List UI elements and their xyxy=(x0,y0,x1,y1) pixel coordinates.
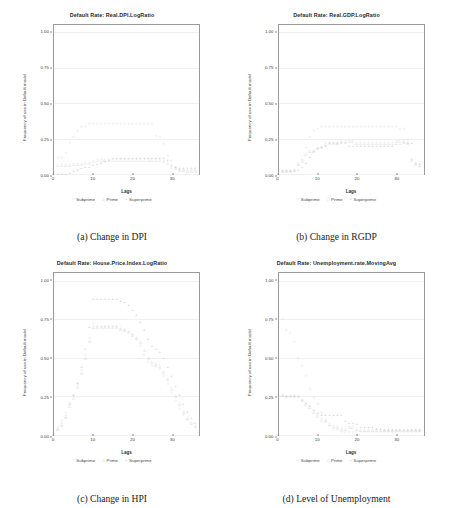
data-point: + xyxy=(281,394,283,398)
data-point: + xyxy=(104,297,106,301)
data-point: + xyxy=(297,168,299,172)
data-point: + xyxy=(151,343,153,347)
grid-line xyxy=(279,435,424,436)
data-point: △ xyxy=(135,336,138,340)
data-point: ○ xyxy=(360,125,363,129)
data-point: + xyxy=(371,425,373,429)
data-point: ○ xyxy=(336,125,339,129)
data-point: + xyxy=(383,428,385,432)
panel-hpi: Default Rate: House.Price.Index.LogRatio… xyxy=(0,248,224,508)
data-point: △ xyxy=(351,425,354,429)
data-point: △ xyxy=(143,348,146,352)
data-point: △ xyxy=(88,339,91,343)
y-tick-label: 0.75 xyxy=(40,316,49,321)
data-point: ○ xyxy=(395,125,398,129)
data-point: △ xyxy=(344,427,347,431)
data-point: △ xyxy=(80,371,83,375)
data-point: △ xyxy=(308,149,311,153)
plot-axes: ○○○○○○○○○○○○○○○○○○○○○○○○○○○○○○○○○○○○△△△△… xyxy=(278,272,425,436)
data-point: ○ xyxy=(305,146,308,150)
data-point: ○ xyxy=(88,122,91,126)
data-point: + xyxy=(332,141,334,145)
data-point: + xyxy=(190,416,192,420)
y-tick-label: 0.00 xyxy=(40,173,49,178)
data-point: △ xyxy=(324,419,327,423)
legend-item: △Prime xyxy=(102,458,118,463)
data-point: ○ xyxy=(340,125,343,129)
data-point: + xyxy=(316,411,318,415)
data-point: △ xyxy=(127,330,130,334)
data-point: ○ xyxy=(313,396,316,400)
data-point: ○ xyxy=(166,382,169,386)
data-point: + xyxy=(127,156,129,160)
data-point: + xyxy=(363,144,365,148)
data-point: + xyxy=(119,299,121,303)
data-point: ○ xyxy=(324,125,327,129)
data-point: + xyxy=(356,144,358,148)
data-point: + xyxy=(72,169,74,173)
data-point: ○ xyxy=(352,125,355,129)
data-point: + xyxy=(305,400,307,404)
data-point: + xyxy=(411,428,413,432)
data-point: + xyxy=(143,156,145,160)
data-point: △ xyxy=(92,325,95,329)
data-point: △ xyxy=(76,162,79,166)
legend-item: ○Subprime xyxy=(297,197,320,202)
data-point: ○ xyxy=(61,156,64,160)
data-point: + xyxy=(76,168,78,172)
data-point: △ xyxy=(150,360,153,364)
y-axis-label: Frequency of use in Default model xyxy=(20,20,30,195)
data-point: + xyxy=(285,394,287,398)
data-point: + xyxy=(403,141,405,145)
x-tick-label: 0 xyxy=(276,437,278,442)
data-point: + xyxy=(170,374,172,378)
x-tick-label: 10 xyxy=(90,176,95,181)
legend-label: Superprime xyxy=(129,458,152,463)
data-point: + xyxy=(170,163,172,167)
legend-label: Prime xyxy=(331,197,342,202)
data-point: + xyxy=(190,166,192,170)
data-point: + xyxy=(147,337,149,341)
plot-wrapper-hpi: Frequency of use in Default model 0.000.… xyxy=(22,268,202,456)
data-point: △ xyxy=(301,159,304,163)
data-point: + xyxy=(127,303,129,307)
x-tick-label: 10 xyxy=(315,437,320,442)
data-point: ○ xyxy=(391,125,394,129)
data-point: + xyxy=(174,384,176,388)
data-point: + xyxy=(313,149,315,153)
data-point: + xyxy=(375,144,377,148)
data-point: △ xyxy=(320,417,323,421)
x-tick-label: 20 xyxy=(130,176,135,181)
data-point: ○ xyxy=(348,125,351,129)
y-tick-label: 0.25 xyxy=(265,394,274,399)
y-tick-label: 0.00 xyxy=(265,173,274,178)
data-point: △ xyxy=(162,370,165,374)
x-axis-label: Lags xyxy=(278,450,425,455)
data-point: ○ xyxy=(155,134,158,138)
data-point: + xyxy=(360,144,362,148)
grid-line xyxy=(54,174,199,175)
y-tick-label: 0.75 xyxy=(265,65,274,70)
grid-line xyxy=(54,435,199,436)
legend-item: +Superprime xyxy=(125,197,152,202)
data-point: + xyxy=(348,421,350,425)
y-tick-label: 1.00 xyxy=(265,29,274,34)
data-point: ○ xyxy=(57,156,60,160)
legend-item: +Superprime xyxy=(350,197,377,202)
data-point: + xyxy=(159,156,161,160)
data-point: + xyxy=(68,402,70,406)
data-point: + xyxy=(414,161,416,165)
data-point: + xyxy=(123,300,125,304)
data-point: + xyxy=(418,162,420,166)
legend-label: Subprime xyxy=(301,197,320,202)
data-point: + xyxy=(72,393,74,397)
data-point: ○ xyxy=(147,122,150,126)
data-point: △ xyxy=(103,325,106,329)
data-point: ○ xyxy=(375,125,378,129)
data-point: + xyxy=(324,144,326,148)
data-point: + xyxy=(155,346,157,350)
data-point: + xyxy=(379,144,381,148)
data-point: ○ xyxy=(68,141,71,145)
chart-title: Default Rate: Real.GDP.LogRatio xyxy=(293,12,380,18)
data-point: △ xyxy=(119,326,122,330)
